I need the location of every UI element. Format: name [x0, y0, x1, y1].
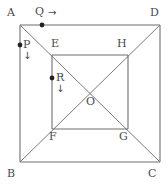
- center-label-o: O: [86, 96, 95, 107]
- vertex-label-a: A: [7, 7, 15, 18]
- vertex-label-e: E: [51, 38, 59, 49]
- point-marker-q[interactable]: [40, 23, 45, 28]
- vertex-label-g: G: [119, 131, 128, 142]
- vertex-label-b: B: [7, 168, 15, 179]
- geometry-figure: A D C B E H G F O Q → P ↓ R ↓: [0, 0, 168, 189]
- arrow-right-icon-q: →: [48, 8, 56, 18]
- point-marker-p[interactable]: [18, 43, 23, 48]
- vertex-label-d: D: [150, 7, 159, 18]
- point-label-p: P: [23, 39, 30, 50]
- diagonals: [20, 25, 160, 162]
- point-label-q: Q: [35, 6, 44, 17]
- point-marker-r[interactable]: [50, 76, 55, 81]
- vertex-label-f: F: [49, 131, 57, 142]
- figure-canvas: [0, 0, 168, 189]
- vertex-label-c: C: [148, 168, 156, 179]
- vertex-label-h: H: [117, 38, 127, 49]
- point-label-r: R: [56, 72, 64, 83]
- arrow-down-icon-r: ↓: [56, 84, 64, 94]
- arrow-down-icon-p: ↓: [23, 51, 31, 61]
